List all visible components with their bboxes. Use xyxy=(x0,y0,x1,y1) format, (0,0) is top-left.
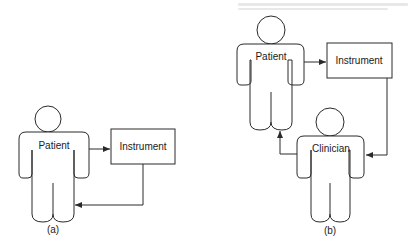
instrument-label: Instrument xyxy=(335,55,382,66)
patient-figure-b: Patient xyxy=(237,16,304,130)
arrow-instrument-to-clinician xyxy=(366,78,387,155)
caption-b: (b) xyxy=(324,225,336,236)
clinician-head xyxy=(316,108,344,136)
instrument-label: Instrument xyxy=(119,141,166,152)
caption-a: (a) xyxy=(47,224,59,235)
figure-a: Patient Instrument (a) xyxy=(19,106,175,235)
arrow-clinician-to-patient xyxy=(280,131,297,154)
instrument-box-a: Instrument xyxy=(111,129,175,164)
instrument-box-b: Instrument xyxy=(327,43,392,78)
patient-label: Patient xyxy=(38,140,69,151)
diagram-canvas: Patient Instrument (a) Patient Instrumen… xyxy=(0,0,412,244)
patient-head xyxy=(257,16,285,44)
figure-b: Patient Instrument Clinician (b) xyxy=(237,16,392,236)
patient-label: Patient xyxy=(255,51,286,62)
clinician-label: Clinician xyxy=(312,143,350,154)
clinician-figure: Clinician xyxy=(297,108,364,222)
patient-head xyxy=(35,106,61,132)
bleed-through-smudge xyxy=(238,3,408,10)
